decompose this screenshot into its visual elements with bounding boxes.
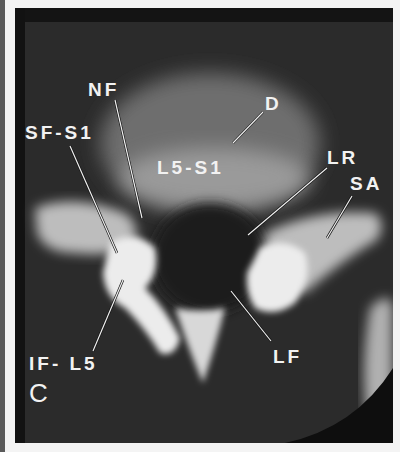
label-sf-s1: SF-S1 [25,123,94,142]
label-if-l5: IF- L5 [29,354,98,373]
label-sa: SA [350,174,382,193]
ct-anatomy-graphic [15,8,393,443]
ct-scan-image: NF SF-S1 D L5-S1 LR SA LF IF- L5 C [15,8,393,443]
spinous-process [175,308,225,383]
label-lf: LF [273,347,302,366]
label-lr: LR [327,148,358,167]
panel-letter: C [29,380,48,406]
adjacent-panel-edge [0,0,5,452]
label-d: D [265,94,282,113]
label-nf: NF [88,80,119,99]
label-l5-s1: L5-S1 [157,158,224,177]
